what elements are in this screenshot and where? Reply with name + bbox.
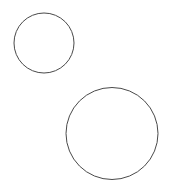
figure-canvas	[0, 0, 174, 194]
circles-figure	[0, 0, 174, 194]
canvas-background	[0, 0, 174, 194]
